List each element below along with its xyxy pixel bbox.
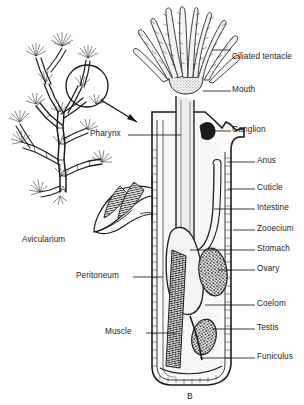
magnifier-leader-arrow <box>101 100 137 122</box>
label-intestine: Intestine <box>257 204 289 212</box>
label-ciliated-tentacle: Ciliated tentacle <box>232 53 292 61</box>
label-funiculus: Funiculus <box>257 353 293 361</box>
label-peritoneum: Peritoneum <box>76 272 119 280</box>
label-muscle: Muscle <box>105 328 132 336</box>
label-zooecium: Zooecium <box>257 225 294 233</box>
label-ganglion: Ganglion <box>232 126 266 134</box>
ganglion <box>200 123 215 140</box>
label-coelom: Coelom <box>257 300 286 308</box>
label-ovary: Ovary <box>257 265 279 273</box>
mouth-region <box>169 78 203 94</box>
label-pharynx: Pharynx <box>90 130 121 138</box>
label-stomach: Stomach <box>257 245 290 253</box>
panel-a-colony <box>9 32 137 205</box>
panel-label-b: B <box>187 392 193 401</box>
label-testis: Testis <box>257 324 279 332</box>
bryozoan-anatomy-figure: Ciliated tentacle Mouth Ganglion Anus Cu… <box>0 0 304 405</box>
label-cuticle: Cuticle <box>257 184 283 192</box>
label-avicularium: Avicularium <box>22 236 65 244</box>
label-anus: Anus <box>257 157 276 165</box>
label-mouth: Mouth <box>232 86 255 94</box>
panel-label-a: A <box>60 185 66 194</box>
lophophore-tentacles <box>133 7 239 83</box>
avicularium <box>94 176 153 234</box>
